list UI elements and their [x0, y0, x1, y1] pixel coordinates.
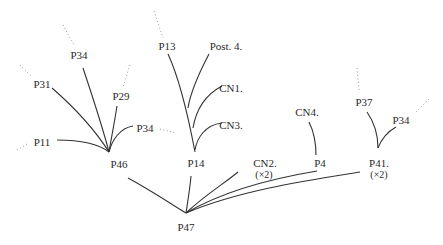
edge-p41-p34c — [378, 127, 396, 148]
node-p29: P29 — [112, 91, 129, 102]
edge-p46-p31 — [52, 88, 109, 152]
node-cn2: CN2. — [253, 158, 277, 169]
edge-p41-p37 — [367, 112, 378, 148]
dotted-continuation-p34a — [63, 25, 74, 45]
node-p31: P31 — [33, 79, 50, 90]
node-p41-multiplier: (×2) — [370, 170, 387, 180]
node-p34-right: P34 — [392, 115, 409, 126]
edge-p14-cn3 — [195, 123, 222, 150]
node-p46: P46 — [110, 159, 127, 170]
edge-p14-post4 — [188, 54, 209, 108]
node-cn3: CN3. — [219, 120, 243, 131]
node-p47: P47 — [177, 222, 194, 233]
node-p13: P13 — [158, 41, 175, 52]
dotted-continuation-p29 — [123, 65, 130, 87]
dotted-continuation-p31 — [20, 65, 31, 76]
edge-p4-cn4 — [309, 122, 316, 155]
dotted-continuation-p34b — [160, 129, 176, 133]
node-p37: P37 — [355, 97, 372, 108]
node-p14: P14 — [187, 158, 204, 169]
dotted-continuation-p11 — [17, 144, 27, 150]
node-p34-middle: P34 — [136, 123, 153, 134]
edge-p46-p34a — [83, 68, 109, 152]
node-p34-upper-left: P34 — [70, 50, 87, 61]
edge-p46-p11 — [57, 140, 109, 152]
node-cn2-multiplier: (×2) — [255, 170, 272, 180]
dotted-continuation-p37 — [357, 68, 359, 90]
node-p11: P11 — [34, 137, 51, 148]
edge-p14-p13 — [168, 54, 195, 152]
edge-p47-p46 — [128, 178, 186, 213]
node-post4: Post. 4. — [210, 41, 243, 52]
edge-p46-p29 — [109, 106, 117, 152]
edge-p14-cn1 — [193, 86, 222, 128]
node-p4: P4 — [314, 158, 326, 169]
tree-diagram: P47 P46 P14 CN2. (×2) P4 P41. (×2) P11 P… — [0, 0, 443, 245]
node-cn4: CN4. — [295, 107, 319, 118]
dotted-continuation-p34c — [416, 99, 429, 112]
node-p41: P41. — [369, 158, 389, 169]
edge-p47-p14 — [186, 176, 191, 213]
node-cn1: CN1. — [219, 83, 243, 94]
dotted-continuation-p13 — [154, 11, 163, 38]
edge-p47-p41 — [186, 172, 360, 213]
